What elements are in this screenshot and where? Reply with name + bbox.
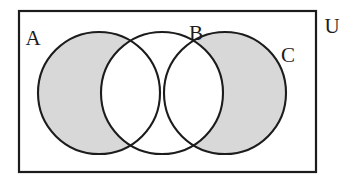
set-label-b: B	[189, 21, 203, 45]
universal-set-label: U	[324, 14, 339, 38]
set-label-c: C	[281, 43, 295, 67]
set-label-a: A	[25, 26, 41, 50]
venn-diagram-figure: A B C U	[0, 0, 364, 184]
shaded-region-c-only	[0, 0, 364, 184]
venn-diagram-svg: A B C U	[0, 0, 364, 184]
